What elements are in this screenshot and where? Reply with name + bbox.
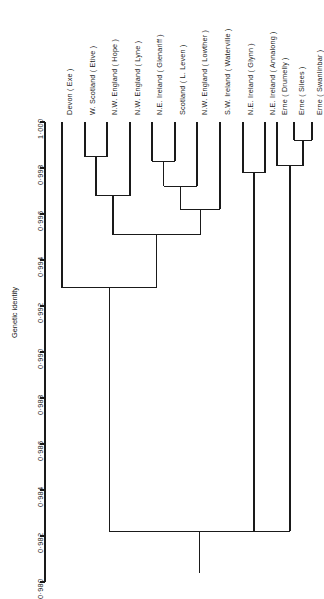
genetic-identity-axis	[40, 122, 45, 582]
tree-branches	[62, 122, 312, 573]
